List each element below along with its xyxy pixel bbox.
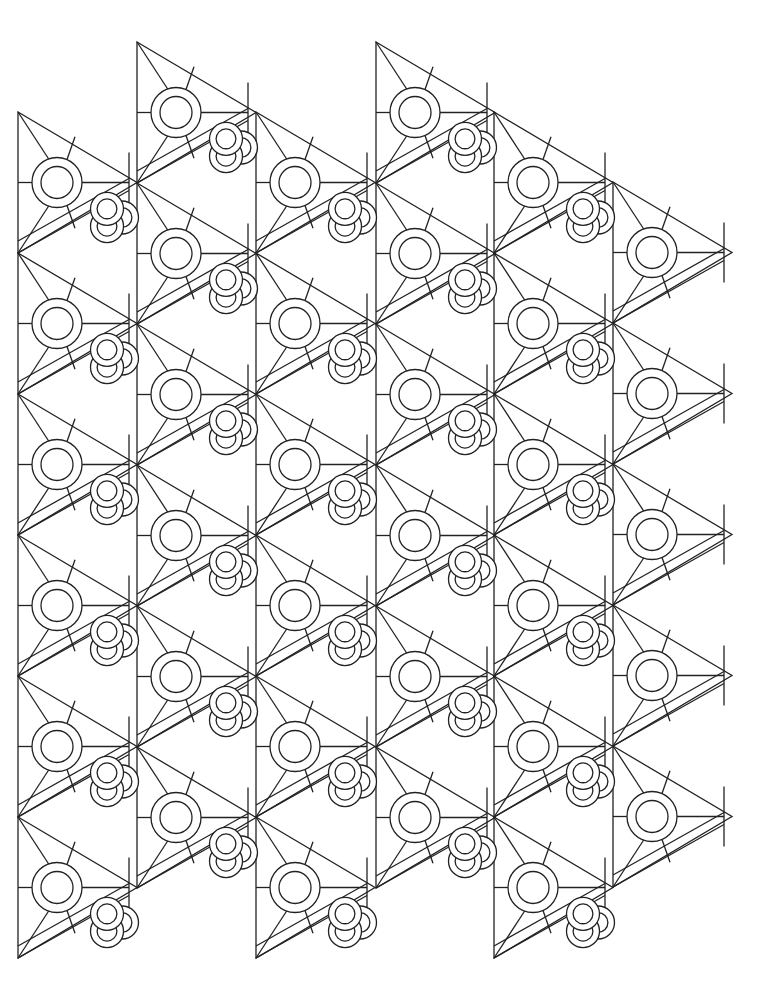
- pinwheel-knot-icon: [329, 897, 377, 947]
- pinwheel-knot-icon: [91, 333, 139, 383]
- pinwheel-knot-icon: [210, 263, 258, 313]
- pinwheel-knot-icon: [567, 333, 615, 383]
- pinwheel-knot-icon: [210, 545, 258, 595]
- ring-outer: [390, 88, 440, 138]
- pinwheel-knot-icon: [329, 192, 377, 242]
- triangle-tile: [613, 605, 732, 746]
- ring-outer: [627, 792, 677, 842]
- ring-outer: [508, 299, 558, 349]
- ring-outer: [32, 863, 82, 913]
- triangle-tile: [613, 182, 732, 323]
- pinwheel-knot-icon: [210, 686, 258, 736]
- ring-outer: [627, 510, 677, 560]
- pinwheel-knot-icon: [91, 756, 139, 806]
- ring-outer: [270, 299, 320, 349]
- pinwheel-knot-icon: [449, 686, 497, 736]
- pinwheel-knot-icon: [91, 474, 139, 524]
- ring-outer: [270, 158, 320, 208]
- ring-outer: [151, 370, 201, 420]
- ring-outer: [390, 229, 440, 279]
- triangle-tile: [613, 746, 732, 887]
- ring-outer: [151, 88, 201, 138]
- pinwheel-knot-icon: [329, 474, 377, 524]
- pinwheel-knot-icon: [210, 404, 258, 454]
- ring-outer: [508, 158, 558, 208]
- ring-outer: [627, 651, 677, 701]
- pinwheel-knot-icon: [449, 122, 497, 172]
- pinwheel-knot-icon: [210, 122, 258, 172]
- ring-outer: [270, 440, 320, 490]
- pinwheel-knot-icon: [567, 474, 615, 524]
- triangle-tile: [613, 464, 732, 605]
- ring-outer: [151, 511, 201, 561]
- pinwheel-knot-icon: [567, 615, 615, 665]
- ring-outer: [508, 581, 558, 631]
- pinwheel-knot-icon: [329, 756, 377, 806]
- pinwheel-knot-icon: [329, 333, 377, 383]
- ring-outer: [32, 581, 82, 631]
- ring-outer: [390, 793, 440, 843]
- pinwheel-knot-icon: [567, 756, 615, 806]
- ring-outer: [627, 369, 677, 419]
- triangle-tile: [613, 323, 732, 464]
- ring-outer: [270, 581, 320, 631]
- ring-outer: [508, 440, 558, 490]
- ring-outer: [508, 863, 558, 913]
- ring-outer: [151, 229, 201, 279]
- ring-outer: [32, 299, 82, 349]
- pinwheel-knot-icon: [449, 545, 497, 595]
- pinwheel-knot-icon: [91, 615, 139, 665]
- pinwheel-knot-icon: [329, 615, 377, 665]
- tessellation-artwork: [0, 0, 766, 998]
- pinwheel-knot-icon: [567, 192, 615, 242]
- ring-outer: [32, 158, 82, 208]
- ring-outer: [270, 863, 320, 913]
- ring-outer: [390, 652, 440, 702]
- ring-outer: [151, 793, 201, 843]
- pinwheel-knot-icon: [91, 897, 139, 947]
- ring-outer: [151, 652, 201, 702]
- ring-outer: [390, 370, 440, 420]
- ring-outer: [508, 722, 558, 772]
- ring-outer: [32, 722, 82, 772]
- pinwheel-knot-icon: [210, 827, 258, 877]
- ring-outer: [270, 722, 320, 772]
- pinwheel-knot-icon: [449, 404, 497, 454]
- pinwheel-knot-icon: [449, 827, 497, 877]
- ring-outer: [32, 440, 82, 490]
- pinwheel-knot-icon: [567, 897, 615, 947]
- ring-outer: [627, 228, 677, 278]
- pinwheel-knot-icon: [91, 192, 139, 242]
- ring-outer: [390, 511, 440, 561]
- pinwheel-knot-icon: [449, 263, 497, 313]
